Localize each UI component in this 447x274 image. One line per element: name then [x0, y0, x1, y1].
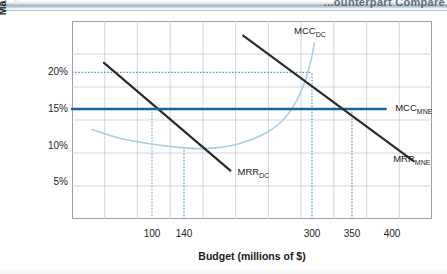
y-tick-label: 10% [48, 140, 68, 151]
label-mrr-mne: MRRMNE [393, 153, 430, 166]
chart-series-layer [72, 21, 432, 219]
x-tick-label: 100 [144, 228, 161, 239]
series-mrr-mne [243, 36, 413, 161]
y-tick-label: 20% [48, 66, 68, 77]
label-mcc-mne: MCCMNE [395, 102, 432, 115]
y-axis-tick-labels: 20%15%10%5% [34, 0, 68, 274]
chart-plot-area [72, 21, 432, 219]
label-mcc-dc: MCCDC [294, 25, 326, 38]
x-tick-label: 350 [344, 228, 361, 239]
y-axis-title: Marginal cost of capital and rate of ret… [0, 0, 32, 32]
x-tick-label: 140 [176, 228, 193, 239]
page-header-text: ...ounterpart Compare [324, 0, 445, 8]
y-tick-label: 5% [54, 176, 68, 187]
y-tick-label: 15% [48, 103, 68, 114]
series-mrr-dc [104, 63, 230, 171]
x-tick-label: 300 [304, 228, 321, 239]
x-tick-label: 400 [384, 228, 401, 239]
series-mcc-dc [92, 43, 314, 149]
label-mrr-dc: MRRDC [238, 166, 270, 179]
x-axis-title: Budget (millions of $) [72, 250, 432, 262]
